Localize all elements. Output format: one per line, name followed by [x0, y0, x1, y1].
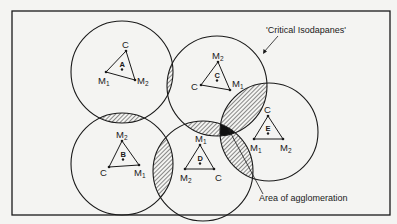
vertex-label: M2 — [116, 129, 128, 141]
vertex-label: M2 — [212, 50, 224, 62]
firm-letter: A — [120, 60, 126, 69]
firm-triangle-b: M2CM1B — [100, 129, 146, 179]
isodapane-circle-a — [71, 21, 173, 123]
vertex-label: M1 — [134, 167, 146, 179]
vertex-label: C — [100, 167, 107, 178]
vertex-dot — [217, 61, 220, 64]
firm-letter: C — [215, 71, 221, 80]
diagram-frame — [12, 11, 390, 215]
agglomeration-diagram: CM1M2AM2CM1CM2CM1BM1M2CDCM1M2E 'Critical… — [0, 0, 397, 224]
firm-location-dot — [121, 68, 123, 70]
vertex-dot — [213, 168, 216, 171]
firm-location-dot — [199, 162, 201, 164]
firm-letter: D — [198, 154, 204, 163]
vertex-dot — [267, 115, 270, 118]
critical-isodapanes-label: 'Critical Isodapanes' — [266, 25, 346, 35]
firm-location-dot — [267, 132, 269, 134]
vertex-label: M2 — [137, 75, 149, 87]
vertex-label: M1 — [98, 75, 110, 87]
vertex-dot — [282, 138, 285, 141]
location-triangles: CM1M2AM2CM1CM2CM1BM1M2CDCM1M2E — [98, 39, 292, 184]
vertex-label: C — [191, 81, 198, 92]
vertex-dot — [108, 166, 111, 169]
agglomeration-label: Area of agglomeration — [259, 193, 348, 203]
vertex-label: M1 — [250, 142, 262, 154]
vertex-dot — [253, 138, 256, 141]
vertex-label: M2 — [180, 172, 192, 184]
vertex-label: M2 — [280, 142, 292, 154]
firm-triangle-d: M1M2CD — [180, 133, 222, 184]
vertex-dot — [134, 79, 137, 82]
vertex-dot — [199, 144, 202, 147]
firm-letter: E — [266, 124, 271, 133]
vertex-dot — [105, 71, 108, 74]
firm-location-dot — [216, 79, 218, 81]
vertex-label: C — [215, 172, 222, 183]
vertex-label: C — [122, 39, 129, 50]
vertex-dot — [200, 84, 203, 87]
vertex-label: M1 — [232, 78, 244, 90]
critical-isodapanes-callout: 'Critical Isodapanes' — [263, 25, 346, 54]
firm-triangle-a: CM1M2A — [98, 39, 149, 87]
vertex-label: C — [264, 104, 271, 115]
vertex-dot — [138, 164, 141, 167]
vertex-dot — [184, 168, 187, 171]
firm-location-dot — [122, 158, 124, 160]
vertex-dot — [229, 89, 232, 92]
firm-triangle-c: M2CM1C — [191, 50, 244, 92]
vertex-dot — [125, 50, 128, 53]
firm-letter: B — [121, 150, 127, 159]
vertex-dot — [121, 140, 124, 143]
